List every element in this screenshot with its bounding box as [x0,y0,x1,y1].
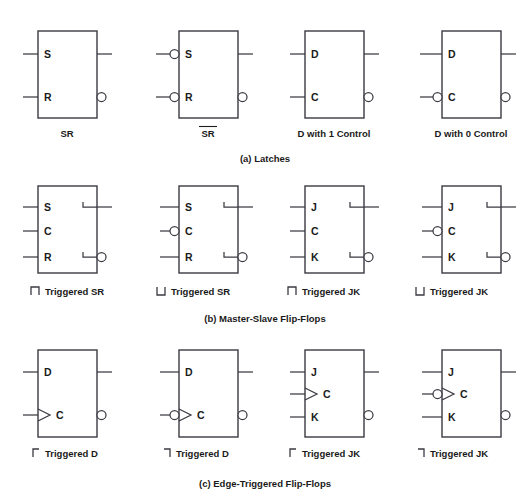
symbol-caption: Triggered D [176,448,229,459]
pin-label-r: R [185,91,193,103]
output-bubble-qbar [501,411,510,420]
pin-label-s: S [44,48,51,60]
input-bubble-c [433,227,442,236]
negative-pulse-glyph [416,287,424,295]
latch-symbol-d-0-control: D C D with 0 Control [420,31,516,139]
pin-label-c: C [311,91,319,103]
output-bubble-qbar [97,253,106,262]
symbol-caption: Triggered JK [430,448,488,459]
symbol-body [38,350,97,437]
pin-label-d: D [311,48,319,60]
symbol-caption: Triggered SR [45,286,104,297]
pin-label-s: S [44,201,51,213]
symbol-caption: Triggered SR [171,286,230,297]
pin-label-c: C [460,388,468,400]
flip-flop-symbols-figure: S R SR S R SR [0,0,531,504]
symbol-caption: SR [60,128,73,139]
pin-label-c: C [185,225,193,237]
postponed-output-marker-qbar [350,252,364,257]
pin-label-j: J [448,201,454,213]
output-bubble-qbar [238,93,247,102]
symbol-caption: D with 1 Control [298,128,371,139]
symbol-caption: D with 0 Control [435,128,508,139]
row-master-slave: S C R Triggered SR S C R [23,186,516,324]
pin-label-j: J [311,201,317,213]
et-symbol-d-rising: D C Triggered D [23,350,112,459]
rising-edge-glyph [290,449,296,457]
symbol-body [305,31,364,118]
symbol-caption: SR [201,128,214,139]
ms-symbol-jk-positive: J C K Triggered JK [288,186,379,297]
row-edge-triggered: D C Triggered D D C Triggered D [23,350,516,489]
pin-label-k: K [448,411,456,423]
pin-label-d: D [448,48,456,60]
ms-symbol-jk-negative: J C K Triggered JK [416,186,516,297]
postponed-output-marker-q [350,202,364,207]
figure-canvas: S R SR S R SR [0,0,531,504]
positive-pulse-glyph [31,287,39,295]
pin-label-s: S [185,48,192,60]
input-bubble-c [170,227,179,236]
output-bubble-qbar [364,253,373,262]
symbol-caption: Triggered JK [302,286,360,297]
latch-symbol-sr: S R SR [23,31,112,139]
output-bubble-qbar [238,253,247,262]
pin-label-c: C [197,409,205,421]
input-bubble-c [433,93,442,102]
input-bubble-s [170,50,179,59]
symbol-body [442,350,501,437]
symbol-caption: Triggered JK [430,286,488,297]
pin-label-j: J [448,366,454,378]
symbol-caption: Triggered JK [302,448,360,459]
section-caption-c: (c) Edge-Triggered Flip-Flops [199,478,331,489]
latch-symbol-sr-inverted: S R SR [156,31,253,139]
ms-symbol-sr-positive: S C R Triggered SR [23,186,112,297]
symbol-body [305,350,364,437]
symbol-body [179,31,238,118]
pin-label-c: C [311,225,319,237]
latch-symbol-d-1-control: D C D with 1 Control [290,31,379,139]
output-bubble-qbar [501,253,510,262]
pin-label-j: J [311,366,317,378]
dynamic-input-wedge-c [305,388,317,400]
pin-label-c: C [448,225,456,237]
pin-label-k: K [311,411,319,423]
section-caption-b: (b) Master-Slave Flip-Flops [204,313,325,324]
output-bubble-qbar [364,93,373,102]
falling-edge-glyph [418,449,424,457]
output-bubble-qbar [238,411,247,420]
output-bubble-qbar [97,93,106,102]
pin-label-d: D [44,366,52,378]
symbol-caption: Triggered D [45,448,98,459]
postponed-output-marker-q [487,202,501,207]
falling-edge-glyph [164,449,170,457]
et-symbol-jk-rising: J C K Triggered JK [290,350,379,459]
output-bubble-qbar [364,411,373,420]
rising-edge-glyph [33,449,39,457]
input-bubble-c [433,390,442,399]
pin-label-s: S [185,201,192,213]
symbol-body [179,350,238,437]
pin-label-r: R [44,91,52,103]
dynamic-input-wedge-c [38,409,50,421]
dynamic-input-wedge-c [179,409,191,421]
input-bubble-c [170,411,179,420]
output-bubble-qbar [501,93,510,102]
pin-label-c: C [56,409,64,421]
pin-label-k: K [448,251,456,263]
postponed-output-marker-qbar [83,252,97,257]
section-caption-a: (a) Latches [240,153,290,164]
pin-label-c: C [448,91,456,103]
output-bubble-qbar [97,411,106,420]
postponed-output-marker-q [83,202,97,207]
pin-label-r: R [44,251,52,263]
input-bubble-r [170,93,179,102]
positive-pulse-glyph [288,287,296,295]
postponed-output-marker-qbar [224,252,238,257]
dynamic-input-wedge-c [442,388,454,400]
pin-label-k: K [311,251,319,263]
pin-label-r: R [185,251,193,263]
ms-symbol-sr-negative: S C R Triggered SR [157,186,253,297]
row-latches: S R SR S R SR [23,31,516,164]
pin-label-c: C [44,225,52,237]
